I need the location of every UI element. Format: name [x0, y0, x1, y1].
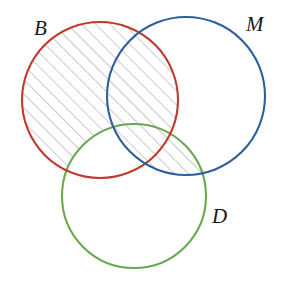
shaded-region-group [0, 0, 285, 284]
set-label-d: D [212, 206, 227, 227]
venn-diagram-canvas [0, 0, 285, 284]
venn-diagram-figure: B M D [0, 0, 285, 284]
set-label-m: M [246, 14, 264, 35]
set-label-b: B [34, 18, 47, 39]
